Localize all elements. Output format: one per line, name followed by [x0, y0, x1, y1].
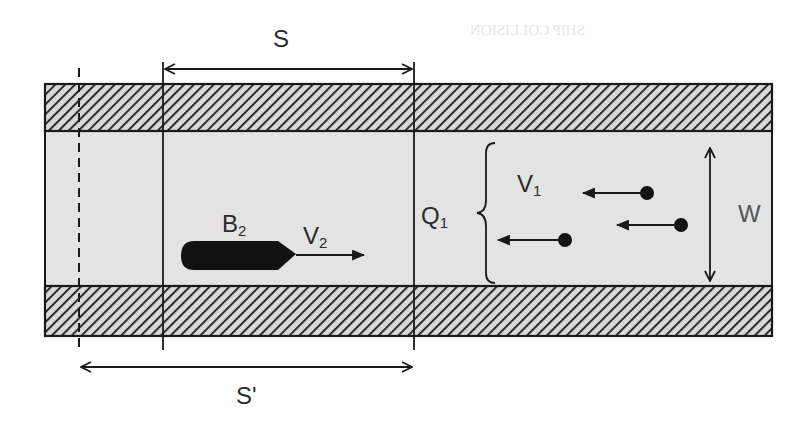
label-q1-main: Q — [421, 202, 440, 229]
label-v1-sub: 1 — [533, 182, 541, 199]
label-ship-b2: B2 — [222, 212, 246, 238]
label-v1: V1 — [517, 172, 541, 198]
label-v2-sub: 2 — [319, 234, 327, 251]
top-bank — [45, 84, 772, 131]
label-v2-main: V — [303, 222, 319, 249]
label-ship-b2-sub: 2 — [238, 222, 246, 239]
label-s: S — [273, 27, 289, 51]
faint-heading: SHIP COLLISION — [470, 22, 585, 39]
label-q1-sub: 1 — [440, 214, 448, 231]
bottom-bank — [45, 286, 772, 336]
label-q1: Q1 — [421, 204, 448, 230]
water-lane — [45, 131, 772, 286]
ship-collision-diagram — [0, 0, 807, 428]
label-w: W — [738, 202, 761, 226]
label-s-prime: S' — [236, 384, 257, 408]
label-ship-b2-main: B — [222, 210, 238, 237]
label-v1-main: V — [517, 170, 533, 197]
ship-b2-hull — [181, 241, 296, 270]
label-v2: V2 — [303, 224, 327, 250]
